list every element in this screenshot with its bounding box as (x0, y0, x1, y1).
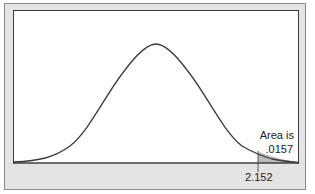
area-annotation-value: .0157 (265, 143, 293, 156)
density-chart (0, 0, 315, 194)
area-annotation-line1: Area is (260, 129, 294, 142)
cutoff-value-label: 2.152 (245, 171, 273, 184)
density-curve (14, 44, 298, 163)
